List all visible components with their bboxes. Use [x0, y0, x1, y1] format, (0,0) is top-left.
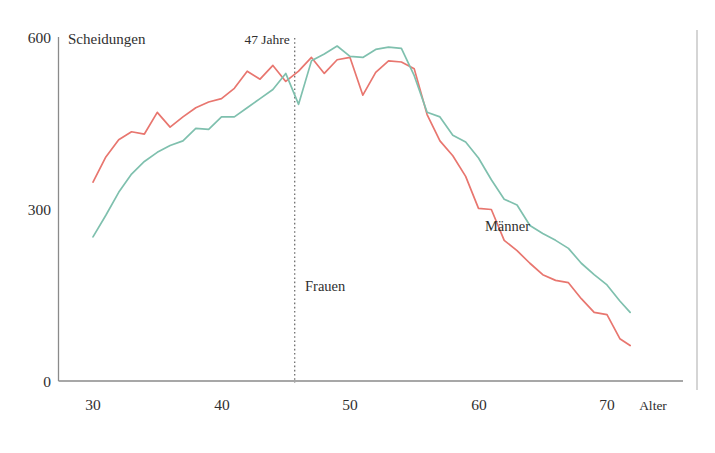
x-tick-30: 30 [85, 396, 101, 413]
y-tick-300: 300 [28, 201, 52, 218]
x-tick-40: 40 [214, 396, 230, 413]
series-label-frauen: Frauen [305, 278, 346, 294]
y-tick-0: 0 [43, 373, 51, 390]
y-tick-600: 600 [28, 29, 52, 46]
annotation-47-jahre: 47 Jahre [244, 32, 289, 47]
divorces-by-age-line-chart: 600 300 0 Scheidungen 30 40 50 60 70 Alt… [0, 0, 715, 453]
x-axis-title: Alter [639, 398, 667, 413]
chart-canvas: 600 300 0 Scheidungen 30 40 50 60 70 Alt… [0, 0, 715, 453]
page-title: Scheidungen [68, 31, 146, 47]
x-tick-70: 70 [599, 396, 615, 413]
x-tick-60: 60 [471, 396, 487, 413]
x-tick-50: 50 [342, 396, 358, 413]
series-label-maenner: Männer [485, 218, 530, 234]
series-line-frauen [93, 57, 630, 345]
series-line-maenner [93, 46, 630, 312]
